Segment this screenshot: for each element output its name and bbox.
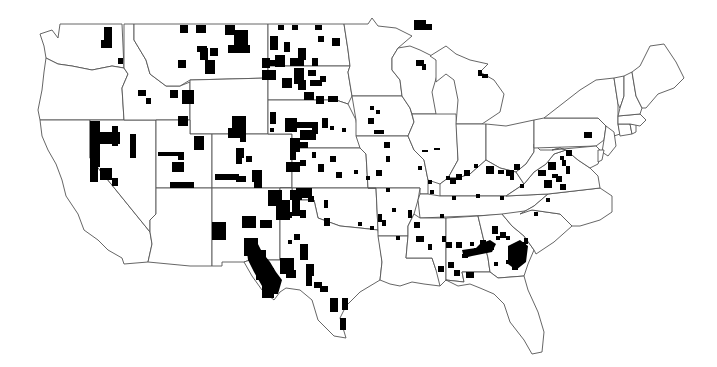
highlighted-county	[340, 318, 346, 330]
state-az	[148, 188, 212, 266]
highlighted-county	[474, 164, 478, 168]
highlighted-county	[556, 176, 562, 182]
highlighted-county	[225, 25, 235, 35]
highlighted-county	[172, 162, 184, 172]
highlighted-county	[382, 220, 386, 226]
highlighted-county	[278, 25, 284, 30]
highlighted-county	[210, 48, 218, 56]
highlighted-county	[240, 136, 246, 142]
highlighted-county	[498, 170, 504, 174]
highlighted-county	[416, 236, 424, 242]
highlighted-county	[215, 174, 239, 180]
highlighted-county	[548, 162, 556, 170]
highlighted-county	[478, 70, 482, 76]
highlighted-county	[454, 270, 460, 276]
highlighted-county	[428, 244, 432, 250]
highlighted-county	[170, 182, 194, 188]
highlighted-county	[500, 232, 506, 238]
state-pa	[534, 118, 606, 148]
highlighted-county	[290, 138, 300, 152]
highlighted-county	[328, 96, 338, 102]
highlighted-county	[306, 276, 312, 286]
state-ks	[292, 148, 368, 188]
highlighted-county	[118, 58, 123, 64]
highlighted-county	[438, 266, 444, 272]
highlighted-county	[288, 240, 292, 244]
highlighted-county	[324, 200, 328, 208]
highlighted-county	[270, 112, 276, 124]
highlighted-county	[306, 264, 314, 276]
highlighted-county	[330, 156, 336, 162]
highlighted-county	[376, 170, 382, 176]
highlighted-county	[370, 226, 374, 230]
highlighted-county	[308, 196, 314, 202]
highlighted-county	[294, 234, 300, 240]
highlighted-county	[324, 218, 330, 226]
highlighted-county	[182, 90, 194, 104]
highlighted-county	[300, 244, 308, 260]
highlighted-county	[278, 212, 286, 218]
highlighted-county	[254, 180, 262, 188]
highlighted-county	[476, 194, 480, 198]
highlighted-county	[242, 216, 256, 228]
highlighted-county	[396, 236, 400, 240]
highlighted-county	[392, 208, 396, 212]
highlighted-county	[178, 152, 184, 160]
highlighted-county	[286, 212, 292, 218]
highlighted-county	[112, 178, 118, 186]
highlighted-county	[524, 238, 528, 244]
highlighted-county	[566, 150, 572, 156]
highlighted-county	[428, 180, 432, 184]
highlighted-county	[470, 242, 474, 246]
highlighted-county	[466, 272, 474, 278]
highlighted-county	[384, 142, 390, 148]
highlighted-county	[380, 130, 384, 134]
highlighted-county	[312, 152, 316, 158]
highlighted-county	[496, 236, 500, 240]
highlighted-county	[456, 174, 462, 180]
highlighted-county	[318, 164, 324, 172]
highlighted-county	[300, 160, 306, 166]
highlighted-county	[464, 170, 470, 176]
highlighted-county	[246, 156, 252, 162]
highlighted-county	[506, 170, 514, 176]
highlighted-county	[296, 122, 318, 128]
highlighted-county	[196, 138, 202, 146]
highlighted-county	[170, 90, 178, 98]
highlighted-county	[292, 200, 300, 216]
highlighted-county	[566, 166, 570, 174]
highlighted-county	[285, 118, 297, 132]
highlighted-county	[315, 25, 322, 30]
highlighted-county	[130, 134, 136, 158]
highlighted-county	[414, 222, 420, 228]
highlighted-county	[320, 286, 328, 292]
highlighted-county	[101, 40, 112, 48]
highlighted-county	[354, 170, 358, 174]
highlighted-county	[452, 196, 456, 200]
highlighted-county	[332, 38, 340, 46]
highlighted-county	[422, 150, 428, 152]
highlighted-county	[546, 198, 550, 202]
highlighted-county	[270, 60, 284, 66]
highlighted-county	[446, 242, 452, 248]
highlighted-county	[510, 176, 514, 180]
highlighted-county	[422, 24, 432, 30]
highlighted-county	[456, 242, 462, 248]
highlighted-county	[506, 236, 510, 240]
highlighted-county	[482, 74, 488, 78]
highlighted-county	[534, 212, 538, 216]
highlighted-county	[228, 45, 250, 53]
highlighted-county	[197, 46, 207, 52]
highlighted-county	[386, 156, 390, 162]
highlighted-county	[322, 118, 328, 128]
highlighted-county	[430, 190, 434, 194]
highlighted-county	[440, 214, 444, 218]
highlighted-county	[316, 96, 324, 104]
highlighted-county	[408, 210, 412, 218]
highlighted-county	[538, 170, 546, 176]
highlighted-county	[520, 184, 524, 188]
highlighted-county	[304, 92, 314, 100]
highlighted-county	[514, 164, 520, 170]
highlighted-county	[196, 25, 206, 33]
highlighted-county	[494, 262, 498, 266]
